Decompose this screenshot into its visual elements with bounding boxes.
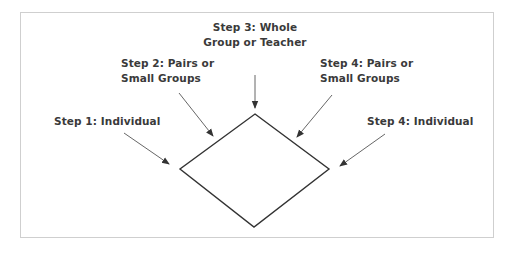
label-step2: Step 2: Pairs or Small Groups	[121, 56, 214, 86]
label-step3-line2: Group or Teacher	[195, 35, 315, 50]
label-step1-line1: Step 1: Individual	[54, 114, 160, 129]
label-step4-individual-line1: Step 4: Individual	[367, 114, 473, 129]
label-step2-line1: Step 2: Pairs or	[121, 56, 214, 71]
label-step4-pairs-line1: Step 4: Pairs or	[320, 56, 413, 71]
label-step4-pairs-line2: Small Groups	[320, 71, 413, 86]
arrow-step4-pairs	[297, 95, 332, 137]
arrow-step1	[124, 133, 169, 164]
label-step4-pairs: Step 4: Pairs or Small Groups	[320, 56, 413, 86]
diamond-shape	[180, 114, 329, 227]
label-step4-individual: Step 4: Individual	[367, 114, 473, 129]
label-step3-line1: Step 3: Whole	[195, 20, 315, 35]
label-step1: Step 1: Individual	[54, 114, 160, 129]
arrow-step2	[179, 93, 213, 136]
label-step3: Step 3: Whole Group or Teacher	[195, 20, 315, 50]
label-step2-line2: Small Groups	[121, 71, 214, 86]
arrow-step4-individual	[340, 134, 385, 166]
